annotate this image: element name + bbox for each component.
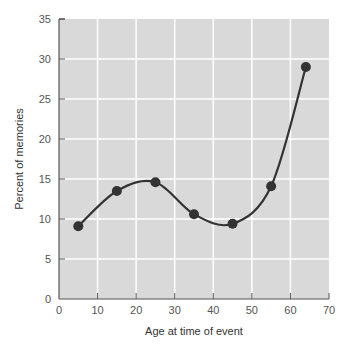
data-point-marker <box>189 209 199 219</box>
data-point-marker <box>266 181 276 191</box>
data-point-marker <box>73 221 83 231</box>
x-tick-label: 40 <box>207 304 219 316</box>
x-tick-label: 60 <box>284 304 296 316</box>
data-point-marker <box>301 62 311 72</box>
x-tick-label: 30 <box>169 304 181 316</box>
x-tick-label: 50 <box>246 304 258 316</box>
chart: 010203040506070 05101520253035 Age at ti… <box>0 0 347 354</box>
y-tick-label: 10 <box>39 213 51 225</box>
y-tick-label: 15 <box>39 173 51 185</box>
y-axis-title: Percent of memories <box>13 108 25 210</box>
y-tick-label: 30 <box>39 53 51 65</box>
y-tick-label: 20 <box>39 133 51 145</box>
plot-area <box>59 19 329 299</box>
y-tick-label: 0 <box>45 293 51 305</box>
y-tick-label: 35 <box>39 13 51 25</box>
data-point-marker <box>112 186 122 196</box>
y-tick-label: 5 <box>45 253 51 265</box>
x-tick-label: 70 <box>323 304 335 316</box>
x-axis-title: Age at time of event <box>145 325 243 337</box>
data-point-marker <box>150 177 160 187</box>
x-tick-label: 10 <box>91 304 103 316</box>
x-tick-label: 0 <box>56 304 62 316</box>
y-tick-label: 25 <box>39 93 51 105</box>
x-tick-label: 20 <box>130 304 142 316</box>
data-point-marker <box>228 219 238 229</box>
